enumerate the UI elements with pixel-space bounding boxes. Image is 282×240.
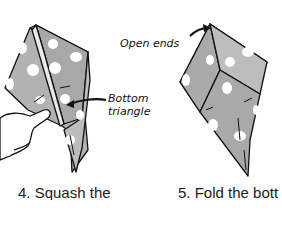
step5-fortune-teller xyxy=(180,24,267,176)
step4-caption: 4. Squash the xyxy=(18,184,111,200)
hand-icon xyxy=(0,110,50,160)
step5-caption: 5. Fold the bott xyxy=(178,184,278,200)
bottom-triangle-label-line1: Bottom xyxy=(108,93,148,105)
open-ends-label: Open ends xyxy=(120,38,179,50)
bottom-triangle-label-line2: triangle xyxy=(108,106,150,118)
